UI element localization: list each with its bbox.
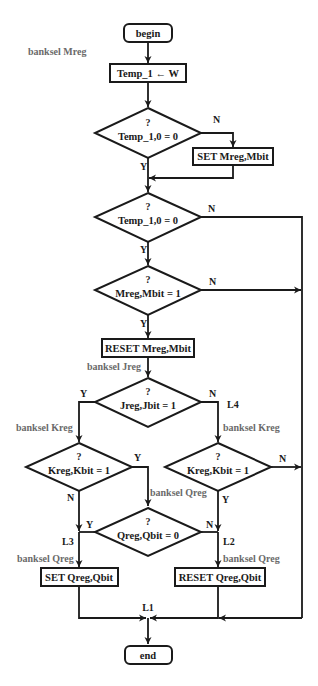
end-terminal: end: [125, 646, 172, 664]
jump-label-l1: L1: [142, 602, 154, 613]
jump-label-l2: L2: [223, 536, 235, 547]
decision-6-condition: Kreg,Kbit = 1: [187, 465, 249, 476]
decision-qreg-qbit: ? Qreg,Qbit = 0: [95, 508, 201, 556]
decision-kreg-kbit-left: ? Kreg,Kbit = 1: [26, 443, 132, 491]
decision-temp-bit-1: ? Temp_1,0 = 0: [95, 108, 201, 158]
decision-temp-bit-2: ? Temp_1,0 = 0: [95, 193, 201, 242]
decision-4-question: ?: [146, 386, 151, 397]
d3-no-label: N: [209, 276, 217, 287]
process-reset-mreg-label: RESET Mreg,Mbit: [105, 343, 191, 354]
annotation-banksel-mreg: banksel Mreg: [28, 46, 86, 57]
annotation-banksel-kreg-left: banksel Kreg: [16, 422, 73, 433]
process-temp-assign: Temp_1 ← W: [110, 64, 186, 82]
process-reset-qreg-label: RESET Qreg,Qbit: [179, 572, 262, 583]
decision-mreg-mbit: ? Mreg,Mbit = 1: [95, 266, 201, 315]
d6-yes-label: Y: [222, 494, 230, 505]
d2-yes-label: Y: [140, 244, 148, 255]
d3-yes-label: Y: [140, 318, 148, 329]
d5-no-label: N: [67, 492, 75, 503]
process-set-mreg: SET Mreg,Mbit: [193, 148, 273, 165]
d4-no-label: N: [209, 388, 217, 399]
process-reset-mreg: RESET Mreg,Mbit: [102, 339, 194, 357]
decision-2-condition: Temp_1,0 = 0: [118, 215, 178, 226]
start-terminal: begin: [124, 24, 172, 42]
process-set-mreg-label: SET Mreg,Mbit: [197, 151, 269, 162]
jump-label-l3: L3: [62, 536, 74, 547]
decision-5-question: ?: [77, 451, 82, 462]
decision-5-condition: Kreg,Kbit = 1: [48, 465, 110, 476]
decision-1-condition: Temp_1,0 = 0: [118, 131, 178, 142]
process-set-qreg-label: SET Qreg,Qbit: [45, 572, 113, 583]
process-reset-qreg: RESET Qreg,Qbit: [175, 568, 265, 586]
d1-no-label: N: [213, 114, 221, 125]
decision-2-question: ?: [146, 201, 151, 212]
annotation-banksel-jreg: banksel Jreg: [87, 361, 141, 372]
annotation-banksel-qreg-mid: banksel Qreg: [150, 487, 207, 498]
d2-no-label: N: [208, 203, 216, 214]
end-label: end: [140, 650, 157, 661]
annotation-banksel-kreg-right: banksel Kreg: [223, 422, 280, 433]
decision-1-question: ?: [146, 117, 151, 128]
process-set-qreg: SET Qreg,Qbit: [41, 568, 118, 586]
d1-yes-label: Y: [140, 161, 148, 172]
decision-3-question: ?: [146, 274, 151, 285]
d7-no-label: N: [206, 519, 214, 530]
d7-yes-label: Y: [86, 519, 94, 530]
start-label: begin: [136, 28, 161, 39]
decision-7-question: ?: [146, 516, 151, 527]
process-temp-assign-label: Temp_1 ← W: [117, 68, 179, 79]
d5-yes-label: Y: [134, 452, 142, 463]
decision-3-condition: Mreg,Mbit = 1: [115, 288, 181, 299]
decision-jreg-jbit: ? Jreg,Jbit = 1: [95, 378, 201, 427]
d6-no-label: N: [279, 453, 287, 464]
annotation-banksel-qreg-left: banksel Qreg: [17, 553, 74, 564]
jump-label-l4: L4: [227, 399, 239, 410]
d4-yes-label: Y: [80, 388, 88, 399]
annotation-banksel-qreg-right: banksel Qreg: [223, 553, 280, 564]
decision-4-condition: Jreg,Jbit = 1: [120, 400, 176, 411]
decision-6-question: ?: [216, 451, 221, 462]
decision-7-condition: Qreg,Qbit = 0: [117, 530, 179, 541]
flowchart-canvas: begin banksel Mreg Temp_1 ← W ? Temp_1,0…: [0, 0, 318, 686]
decision-kreg-kbit-right: ? Kreg,Kbit = 1: [165, 443, 271, 491]
